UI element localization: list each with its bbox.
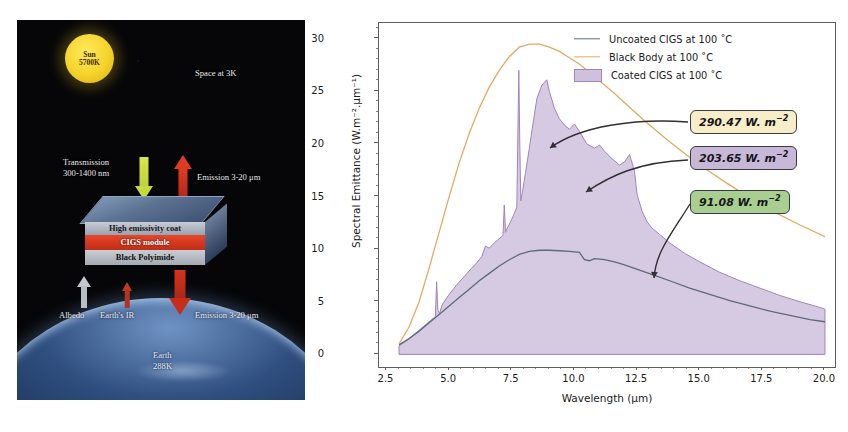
emission-up-arrow-icon <box>174 155 192 197</box>
x-tick-label: 10.0 <box>547 373 599 384</box>
transmission-label-line1: Transmission <box>63 157 109 168</box>
y-tick-label: 30 <box>284 32 324 43</box>
annotation-box: 91.08 W. m−2 <box>690 190 790 214</box>
chart-legend: Uncoated CIGS at 100 ˚CBlack Body at 100… <box>574 30 732 84</box>
legend-label: Black Body at 100 ˚C <box>609 52 713 63</box>
annotation-value: 290.47 W. m <box>699 116 776 129</box>
albedo-arrow-icon <box>77 276 91 308</box>
legend-line <box>574 38 600 39</box>
sun-temperature: 5700K <box>79 59 100 67</box>
legend-label: Coated CIGS at 100 ˚C <box>611 70 722 81</box>
layer-cigs-module: CIGS module <box>85 235 205 250</box>
spectral-emittance-chart: Spectral Emittance (W.m⁻².μm⁻¹) Waveleng… <box>318 0 848 432</box>
y-tick-label: 25 <box>284 85 324 96</box>
layer-high-emissivity-coat: High emissivity coat <box>85 222 205 235</box>
transmission-arrow-icon <box>135 157 153 201</box>
x-tick-label: 12.5 <box>610 373 662 384</box>
emission-bottom-label: Emission 3-20 μm <box>195 310 258 321</box>
x-tick-label: 5.0 <box>422 373 474 384</box>
earth-temperature-label: 288K <box>153 361 172 372</box>
layer-black-polyimide: Black Polyimide <box>85 250 205 265</box>
space-label: Space at 3K <box>195 68 237 79</box>
module-top-face <box>79 196 224 224</box>
y-tick-label: 20 <box>284 137 324 148</box>
pv-module-stack: High emissivity coat CIGS module Black P… <box>85 196 231 272</box>
annotation-exponent: −2 <box>768 194 780 203</box>
y-tick-label: 15 <box>284 190 324 201</box>
annotation-box: 290.47 W. m−2 <box>690 110 797 134</box>
y-tick-label: 5 <box>284 295 324 306</box>
x-tick-label: 2.5 <box>360 373 412 384</box>
x-tick-label: 7.5 <box>485 373 537 384</box>
transmission-label-line2: 300-1400 nm <box>63 168 109 179</box>
albedo-label: Albedo <box>59 310 84 321</box>
legend-swatch <box>574 69 602 82</box>
annotation-box: 203.65 W. m−2 <box>690 146 797 170</box>
emission-top-label: Emission 3-20 μm <box>197 172 260 183</box>
earth-ir-arrow-icon <box>121 282 133 308</box>
annotation-value: 91.08 W. m <box>699 196 768 209</box>
y-tick-label: 0 <box>284 348 324 359</box>
legend-item[interactable]: Uncoated CIGS at 100 ˚C <box>574 30 732 48</box>
legend-item[interactable]: Coated CIGS at 100 ˚C <box>574 66 732 84</box>
earth-cloud <box>135 362 231 382</box>
legend-swatch <box>574 52 600 62</box>
legend-item[interactable]: Black Body at 100 ˚C <box>574 48 732 66</box>
space-diagram-panel: Sun 5700K Space at 3K Transmission 300-1… <box>17 20 305 400</box>
x-axis-label: Wavelength (μm) <box>378 392 836 404</box>
annotation-exponent: −2 <box>776 114 788 123</box>
legend-label: Uncoated CIGS at 100 ˚C <box>609 34 732 45</box>
y-tick-label: 10 <box>284 243 324 254</box>
earth-name-label: Earth <box>153 350 172 361</box>
annotation-value: 203.65 W. m <box>699 152 776 165</box>
annotation-exponent: −2 <box>776 150 788 159</box>
x-tick-label: 20.0 <box>798 373 848 384</box>
earth-ir-label: Earth's IR <box>100 310 134 321</box>
legend-swatch <box>574 34 600 44</box>
x-tick-label: 15.0 <box>673 373 725 384</box>
y-axis-label: Spectral Emittance (W.m⁻².μm⁻¹) <box>350 0 362 331</box>
legend-line <box>574 56 600 57</box>
sun-icon: Sun 5700K <box>65 34 114 83</box>
x-tick-label: 17.5 <box>735 373 787 384</box>
emission-down-arrow-icon <box>169 270 191 316</box>
